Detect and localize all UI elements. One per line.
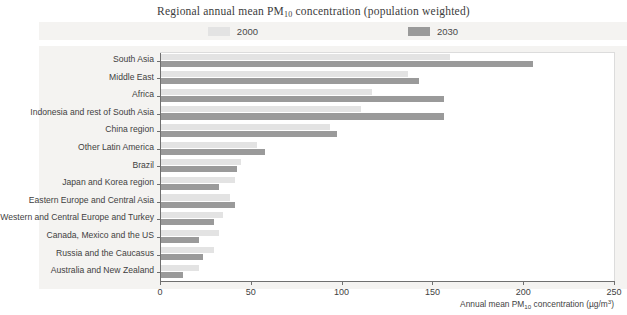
x-axis-tick bbox=[614, 281, 615, 285]
x-axis-tick bbox=[342, 281, 343, 285]
bar-2030 bbox=[161, 219, 214, 225]
bar-2030 bbox=[161, 237, 199, 243]
x-axis-title-prefix: Annual mean PM bbox=[460, 299, 524, 309]
legend-label-2030: 2030 bbox=[437, 26, 458, 37]
y-axis-label: Africa bbox=[132, 86, 154, 104]
bar-row: Canada, Mexico and the US bbox=[161, 228, 615, 246]
legend-item-2030[interactable]: 2030 bbox=[408, 26, 458, 37]
x-axis-tick-label: 150 bbox=[425, 287, 440, 297]
x-axis-line bbox=[160, 281, 615, 282]
bar-2030 bbox=[161, 202, 235, 208]
bar-row: Australia and New Zealand bbox=[161, 263, 615, 281]
x-axis-tick-label: 50 bbox=[246, 287, 256, 297]
bar-2030 bbox=[161, 166, 237, 172]
bar-row: Eastern Europe and Central Asia bbox=[161, 193, 615, 211]
x-axis-tick-label: 100 bbox=[334, 287, 349, 297]
bar-2030 bbox=[161, 61, 533, 67]
y-axis-label: Western and Central Europe and Turkey bbox=[0, 209, 154, 227]
bar-2000 bbox=[161, 247, 214, 253]
bar-2030 bbox=[161, 78, 419, 84]
x-axis-tick-label: 0 bbox=[157, 287, 162, 297]
bar-row: Western and Central Europe and Turkey bbox=[161, 210, 615, 228]
x-axis-title-suffix: ) bbox=[611, 299, 614, 309]
bar-row: Brazil bbox=[161, 158, 615, 176]
y-axis-label: Other Latin America bbox=[78, 139, 154, 157]
y-axis-label: China region bbox=[105, 121, 154, 139]
y-axis-label: Indonesia and rest of South Asia bbox=[30, 104, 154, 122]
y-axis-label: Japan and Korea region bbox=[62, 174, 154, 192]
bar-2030 bbox=[161, 113, 444, 119]
bar-row: Africa bbox=[161, 87, 615, 105]
bar-2000 bbox=[161, 177, 235, 183]
bar-2000 bbox=[161, 71, 408, 77]
y-axis-label: Brazil bbox=[133, 157, 155, 175]
bar-row: Middle East bbox=[161, 70, 615, 88]
bar-2000 bbox=[161, 89, 372, 95]
bar-rows: South AsiaMiddle EastAfricaIndonesia and… bbox=[161, 52, 615, 281]
bar-2000 bbox=[161, 159, 241, 165]
y-axis-label: Eastern Europe and Central Asia bbox=[29, 192, 154, 210]
bar-2030 bbox=[161, 254, 203, 260]
bar-row: Japan and Korea region bbox=[161, 175, 615, 193]
x-axis-tick bbox=[523, 281, 524, 285]
x-axis-title-mid: concentration (µg/m bbox=[531, 299, 608, 309]
chart-title: Regional annual mean PM10 concentration … bbox=[0, 5, 627, 19]
x-axis-tick-label: 250 bbox=[606, 287, 621, 297]
legend-label-2000: 2000 bbox=[237, 26, 258, 37]
legend-item-2000[interactable]: 2000 bbox=[208, 26, 258, 37]
bar-2000 bbox=[161, 54, 450, 60]
chart-title-prefix: Regional annual mean PM bbox=[157, 5, 284, 17]
chart-title-suffix: concentration (population weighted) bbox=[292, 5, 469, 17]
bar-2000 bbox=[161, 106, 361, 112]
plot-area: South AsiaMiddle EastAfricaIndonesia and… bbox=[160, 52, 615, 281]
bar-2030 bbox=[161, 272, 183, 278]
x-axis-tick bbox=[251, 281, 252, 285]
y-axis-label: Canada, Mexico and the US bbox=[47, 227, 155, 245]
x-axis-tick-label: 200 bbox=[516, 287, 531, 297]
y-axis-label: Australia and New Zealand bbox=[51, 262, 154, 280]
x-axis-title: Annual mean PM10 concentration (µg/m3) bbox=[0, 298, 614, 310]
bar-2030 bbox=[161, 149, 265, 155]
legend-swatch-2000 bbox=[208, 27, 230, 36]
bar-2030 bbox=[161, 184, 219, 190]
bar-2000 bbox=[161, 124, 330, 130]
bar-2030 bbox=[161, 131, 337, 137]
bar-2030 bbox=[161, 96, 444, 102]
bar-row: South Asia bbox=[161, 52, 615, 70]
y-axis-label: Middle East bbox=[109, 69, 154, 87]
y-axis-label: South Asia bbox=[113, 51, 154, 69]
chart-figure: Regional annual mean PM10 concentration … bbox=[0, 0, 627, 315]
x-axis-tick bbox=[160, 281, 161, 285]
bar-2000 bbox=[161, 265, 199, 271]
bar-row: Indonesia and rest of South Asia bbox=[161, 105, 615, 123]
bar-row: Other Latin America bbox=[161, 140, 615, 158]
chart-legend: 2000 2030 bbox=[39, 22, 627, 40]
legend-swatch-2030 bbox=[408, 27, 430, 36]
bar-2000 bbox=[161, 212, 223, 218]
bar-row: Russia and the Caucasus bbox=[161, 246, 615, 264]
bar-row: China region bbox=[161, 122, 615, 140]
x-axis-tick bbox=[432, 281, 433, 285]
bar-2000 bbox=[161, 142, 257, 148]
bar-2000 bbox=[161, 230, 219, 236]
y-axis-label: Russia and the Caucasus bbox=[56, 245, 154, 263]
bar-2000 bbox=[161, 194, 230, 200]
